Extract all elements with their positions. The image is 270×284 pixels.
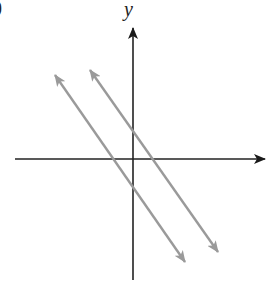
y-axis-label: y bbox=[124, 0, 133, 21]
right-parallel-line bbox=[90, 70, 218, 252]
left-parallel-line bbox=[55, 75, 185, 262]
coordinate-figure: ) y bbox=[0, 0, 270, 284]
plot-canvas bbox=[0, 0, 270, 284]
figure-label-fragment: ) bbox=[0, 0, 2, 18]
